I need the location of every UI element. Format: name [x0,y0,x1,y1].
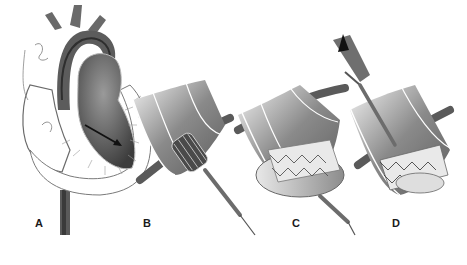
valve-implantation-figure: A B C D [0,0,467,265]
panel-b-crimped-valve [133,80,255,235]
panel-label-d: D [392,218,400,229]
panel-c-balloon-expansion [238,80,355,235]
panel-label-c: C [292,218,300,229]
panel-a-heart [23,5,151,235]
panel-label-b: B [143,218,151,229]
panel-label-a: A [35,218,43,229]
panel-d-deployed-valve [333,34,450,195]
